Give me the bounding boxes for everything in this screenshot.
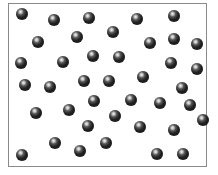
particle-icon	[107, 26, 119, 38]
particle-icon	[168, 10, 180, 22]
particle-icon	[113, 51, 125, 63]
particle-icon	[165, 57, 177, 69]
particle-icon	[16, 149, 28, 161]
particle-icon	[74, 145, 86, 157]
particle-icon	[100, 137, 112, 149]
particle-icon	[30, 107, 42, 119]
particle-icon	[88, 95, 100, 107]
particle-icon	[109, 110, 121, 122]
particle-icon	[16, 8, 28, 20]
diagram-canvas	[0, 0, 218, 175]
particle-icon	[154, 97, 166, 109]
particle-icon	[168, 124, 180, 136]
particle-icon	[83, 12, 95, 24]
particle-icon	[71, 31, 83, 43]
particle-icon	[191, 63, 203, 75]
particle-icon	[168, 33, 180, 45]
particle-icon	[82, 120, 94, 132]
particle-icon	[151, 148, 163, 160]
particle-icon	[144, 37, 156, 49]
particle-icon	[103, 75, 115, 87]
particle-icon	[87, 50, 99, 62]
particle-icon	[78, 75, 90, 87]
particle-icon	[19, 79, 31, 91]
particle-icon	[191, 38, 203, 50]
particle-icon	[15, 57, 27, 69]
particle-icon	[131, 13, 143, 25]
particle-icon	[125, 94, 137, 106]
particle-icon	[44, 81, 56, 93]
particle-icon	[176, 82, 188, 94]
particle-icon	[177, 148, 189, 160]
particle-icon	[137, 71, 149, 83]
particle-icon	[63, 104, 75, 116]
particle-icon	[57, 56, 69, 68]
particle-icon	[48, 14, 60, 26]
particle-icon	[32, 36, 44, 48]
particle-icon	[197, 114, 209, 126]
particle-icon	[184, 99, 196, 111]
particle-icon	[49, 137, 61, 149]
particle-icon	[134, 121, 146, 133]
